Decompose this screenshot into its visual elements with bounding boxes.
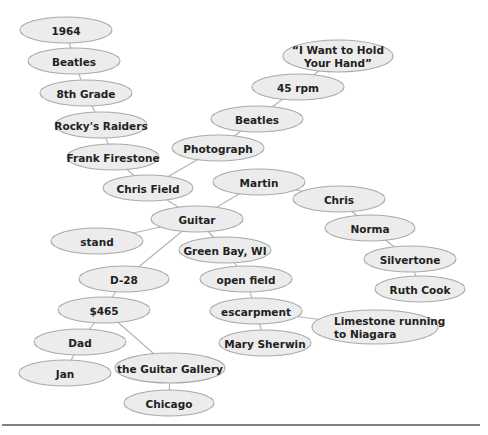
node-label: “I Want to Hold (292, 44, 384, 56)
node-label: Your Hand” (303, 57, 372, 69)
node-limestone: Limestone runningto Niagara (312, 310, 445, 344)
node-greenbay: Green Bay, WI (179, 237, 271, 263)
node-label: Green Bay, WI (183, 245, 266, 257)
node-label: Silvertone (380, 254, 441, 266)
node-label: Guitar (179, 214, 217, 226)
node-guitar: Guitar (151, 206, 243, 232)
node-label: the Guitar Gallery (117, 363, 223, 375)
node-norma: Norma (325, 215, 415, 241)
cluster-diagram: 1964Beatles8th GradeRocky's RaidersFrank… (0, 0, 488, 435)
node-song: “I Want to HoldYour Hand” (283, 40, 393, 72)
node-label: D-28 (110, 274, 138, 286)
node-rocky: Rocky's Raiders (54, 112, 147, 138)
node-openfield: open field (200, 266, 292, 292)
node-n1964: 1964 (20, 17, 112, 43)
node-gallery: the Guitar Gallery (115, 353, 225, 383)
node-chicago: Chicago (124, 390, 214, 416)
node-silvertone: Silvertone (364, 246, 456, 272)
node-label: Chris Field (117, 183, 180, 195)
node-label: $465 (89, 305, 118, 317)
node-beatlesR: Beatles (211, 106, 303, 132)
node-mary: Mary Sherwin (219, 330, 311, 356)
node-label: Martin (240, 177, 279, 189)
node-label: Frank Firestone (66, 152, 159, 164)
node-label: Beatles (52, 56, 96, 68)
node-frank: Frank Firestone (66, 144, 159, 170)
node-stand: stand (51, 228, 143, 254)
node-label: Chicago (146, 398, 193, 410)
node-chris: Chris (293, 186, 385, 212)
cluster-nodes: 1964Beatles8th GradeRocky's RaidersFrank… (19, 17, 465, 416)
node-label: escarpment (221, 306, 291, 318)
node-label: to Niagara (334, 328, 396, 340)
node-escarpment: escarpment (210, 298, 302, 324)
node-beatlesL: Beatles (28, 48, 120, 74)
node-label: stand (80, 236, 113, 248)
node-label: Mary Sherwin (224, 338, 305, 350)
node-ruth: Ruth Cook (375, 276, 465, 302)
node-label: Ruth Cook (390, 284, 452, 296)
node-label: Beatles (235, 114, 279, 126)
node-rpm: 45 rpm (252, 74, 344, 100)
node-d28: D-28 (79, 266, 169, 292)
node-label: Chris (324, 194, 354, 206)
node-label: Norma (350, 223, 389, 235)
node-dad: Dad (34, 329, 126, 355)
node-label: 45 rpm (277, 82, 319, 94)
node-label: Rocky's Raiders (54, 120, 147, 132)
node-label: Photograph (183, 143, 252, 155)
node-chrisfield: Chris Field (103, 175, 193, 201)
node-label: Limestone running (334, 315, 445, 327)
node-price: $465 (58, 297, 150, 323)
node-photo: Photograph (172, 135, 264, 161)
node-label: Jan (55, 368, 74, 380)
node-jan: Jan (19, 360, 111, 386)
node-label: 8th Grade (57, 88, 116, 100)
node-grade8: 8th Grade (40, 80, 132, 106)
node-label: open field (216, 274, 275, 286)
node-martin: Martin (213, 169, 305, 195)
node-label: 1964 (51, 25, 80, 37)
node-label: Dad (68, 337, 91, 349)
